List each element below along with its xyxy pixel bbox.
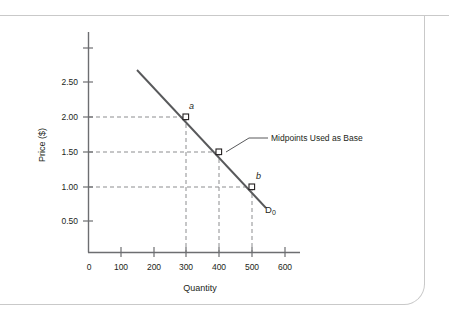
figure-page: 2.50 2.00 1.50 1.00 0.50 0 100 200 300 4… [0, 0, 449, 321]
curve-label-d0-subscript: 0 [272, 209, 276, 216]
marker-point-midpoint [216, 149, 222, 155]
x-tick-label-200: 200 [139, 262, 169, 272]
point-label-b: b [256, 171, 261, 181]
x-tick-label-300: 300 [171, 262, 201, 272]
y-axis-title: Price ($) [37, 95, 47, 195]
x-tick-label-400: 400 [204, 262, 234, 272]
annotation-leader-line [226, 138, 268, 152]
data-point-markers [183, 114, 255, 190]
x-tick-label-100: 100 [106, 262, 136, 272]
marker-point-b [249, 184, 255, 190]
annotation-midpoints-used-as-base: Midpoints Used as Base [271, 133, 363, 143]
curve-label-d0: D0 [265, 204, 276, 215]
y-tick-label-2.50: 2.50 [44, 77, 78, 87]
chart-svg [0, 0, 449, 321]
x-tick-label-0: 0 [74, 262, 104, 272]
guide-lines [89, 117, 253, 252]
x-axis-title: Quantity [140, 283, 260, 293]
x-tick-label-600: 600 [270, 262, 300, 272]
axes [88, 32, 300, 253]
x-tick-label-500: 500 [237, 262, 267, 272]
marker-point-a [183, 114, 189, 120]
y-tick-label-1.50: 1.50 [44, 147, 78, 157]
curve-label-d0-base: D [265, 204, 272, 215]
y-tick-label-2.00: 2.00 [44, 112, 78, 122]
demand-curve-chart: 2.50 2.00 1.50 1.00 0.50 0 100 200 300 4… [0, 0, 449, 321]
point-label-a: a [189, 101, 194, 111]
y-tick-label-1.00: 1.00 [44, 182, 78, 192]
y-tick-label-0.50: 0.50 [44, 216, 78, 226]
